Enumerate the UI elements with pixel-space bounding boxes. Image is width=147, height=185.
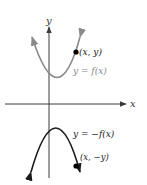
curve-label-neg-f: y = −f(x)	[72, 129, 115, 139]
point-label-x-y: (x, y)	[79, 47, 102, 57]
curve-label-f: y = f(x)	[72, 66, 107, 76]
x-axis-label: x	[130, 98, 136, 109]
y-axis-label: y	[45, 15, 52, 26]
point-x-y	[73, 49, 78, 54]
point-x-neg-y	[73, 163, 78, 168]
reflection-diagram: y x (x, y) y = f(x) y = −f(x) (x, −y)	[0, 0, 147, 185]
point-label-x-neg-y: (x, −y)	[80, 152, 109, 162]
